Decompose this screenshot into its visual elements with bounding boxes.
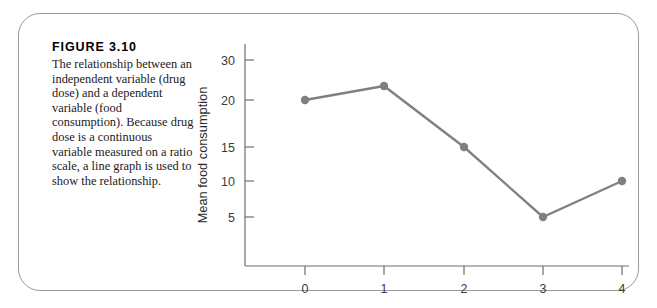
figure-frame: FIGURE 3.10 The relationship between an …: [18, 13, 639, 291]
y-tick-label: 20: [221, 94, 235, 108]
data-point: [618, 177, 626, 185]
figure-caption-text: The relationship between an independent …: [52, 57, 194, 188]
data-point: [539, 213, 547, 221]
x-axis-ticks: [305, 266, 622, 275]
y-tick-label: 5: [228, 211, 235, 225]
y-axis-title: Mean food consumption: [195, 87, 210, 224]
y-tick-label: 10: [221, 175, 235, 189]
y-axis-tick-labels: 30 20 15 10 5: [221, 54, 235, 225]
x-tick-label: 4: [619, 282, 626, 296]
line-chart: 30 20 15 10 5 0 1 2 3 4: [189, 34, 649, 302]
x-axis-tick-labels: 0 1 2 3 4: [302, 282, 626, 296]
chart-svg: 30 20 15 10 5 0 1 2 3 4: [189, 34, 649, 302]
y-tick-label: 30: [221, 54, 235, 68]
data-series-line: [305, 86, 622, 217]
y-axis-ticks: [245, 60, 254, 217]
figure-number-heading: FIGURE 3.10: [52, 40, 194, 55]
y-tick-label: 15: [221, 141, 235, 155]
data-point: [460, 143, 468, 151]
data-point: [380, 82, 388, 90]
x-tick-label: 0: [302, 282, 309, 296]
data-point: [301, 96, 309, 104]
x-tick-label: 1: [381, 282, 388, 296]
figure-caption-block: FIGURE 3.10 The relationship between an …: [52, 40, 194, 188]
x-tick-label: 3: [540, 282, 547, 296]
x-tick-label: 2: [461, 282, 468, 296]
